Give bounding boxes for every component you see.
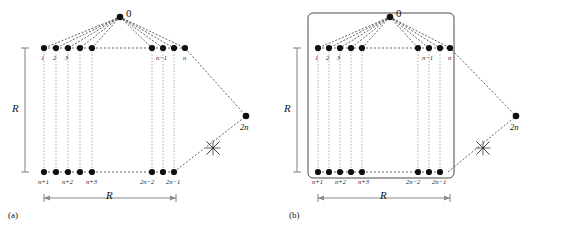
top-node-label-2-b: 2 — [326, 55, 329, 62]
enclosure-box-b — [308, 13, 454, 178]
far-node-edges-a — [174, 48, 246, 172]
top-node-label-2-a: 2 — [53, 55, 56, 62]
panel-b — [293, 13, 519, 202]
far-node-label-a: 2n — [240, 123, 249, 132]
far-node-label-b: 2n — [510, 123, 519, 132]
vertical-scale-label-b: R — [284, 103, 291, 114]
x-cross-mark-a — [206, 141, 221, 156]
top-node-label-nminus1-a: n−1 — [156, 55, 167, 62]
bottom-node-label-nplus3-a: n+3 — [86, 179, 97, 186]
bottom-node-label-nplus3-b: n+3 — [358, 179, 369, 186]
apex-edges-right-a — [120, 17, 185, 48]
x-cross-mark-b — [476, 141, 491, 156]
bottom-node-label-2nminus2-b: 2n−2 — [406, 179, 420, 186]
top-node-label-1-b: 1 — [315, 55, 318, 62]
far-node-edges-b — [448, 50, 516, 172]
bottom-node-label-nplus2-a: n+2 — [62, 179, 73, 186]
top-node-label-3-b: 3 — [337, 55, 340, 62]
far-node-b — [513, 113, 520, 120]
vertical-scale-bar-b — [293, 48, 301, 172]
far-node-a — [243, 113, 250, 120]
vertical-pair-links-b — [318, 48, 440, 172]
apex-edges-left-a — [44, 17, 120, 48]
bottom-node-label-2nminus1-b: 2n−1 — [432, 179, 446, 186]
horizontal-scale-label-a: R — [106, 190, 113, 201]
bottom-node-label-nplus1-b: n+1 — [312, 179, 323, 186]
top-node-label-n-b: n — [448, 55, 451, 62]
apex-edges-left-b — [318, 17, 390, 48]
apex-node-a — [117, 14, 124, 21]
caption-b: (b) — [289, 210, 300, 220]
apex-node-b — [387, 14, 394, 21]
apex-label-b: 0 — [396, 8, 402, 19]
top-node-label-n-a: n — [183, 55, 186, 62]
bottom-node-label-2nminus2-a: 2n−2 — [140, 179, 154, 186]
vertical-scale-bar-a — [21, 48, 29, 172]
figure-canvas — [0, 0, 565, 230]
top-node-label-nminus1-b: n−1 — [422, 55, 433, 62]
bottom-node-label-nplus2-b: n+2 — [335, 179, 346, 186]
top-row-nodes-a — [41, 45, 188, 51]
panel-a — [21, 14, 249, 202]
vertical-pair-links-a — [44, 48, 174, 172]
bottom-node-label-nplus1-a: n+1 — [38, 179, 49, 186]
top-node-label-1-a: 1 — [41, 55, 44, 62]
apex-label-a: 0 — [126, 8, 132, 19]
apex-edges-right-b — [390, 17, 450, 48]
horizontal-scale-label-b: R — [380, 190, 387, 201]
top-node-label-3-a: 3 — [65, 55, 68, 62]
bottom-node-label-2nminus1-a: 2n−1 — [166, 179, 180, 186]
caption-a: (a) — [8, 210, 18, 220]
vertical-scale-label-a: R — [12, 103, 19, 114]
